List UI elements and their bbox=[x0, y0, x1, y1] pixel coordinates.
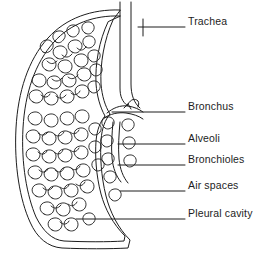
label-trachea: Trachea bbox=[188, 16, 227, 27]
label-bronchus: Bronchus bbox=[188, 101, 234, 112]
label-bronchioles: Bronchioles bbox=[188, 154, 245, 165]
trachea-left-wall bbox=[120, 2, 128, 106]
bronchus-arrow-barb bbox=[124, 104, 131, 109]
lung-anatomy-figure: Trachea Bronchus Alveoli Bronchioles Air… bbox=[0, 0, 275, 268]
label-pleural-cavity: Pleural cavity bbox=[188, 208, 253, 219]
trachea-right-wall bbox=[131, 2, 140, 108]
label-air-spaces: Air spaces bbox=[188, 180, 239, 191]
lung-diagram-drawing bbox=[0, 0, 275, 268]
label-alveoli: Alveoli bbox=[188, 133, 220, 144]
